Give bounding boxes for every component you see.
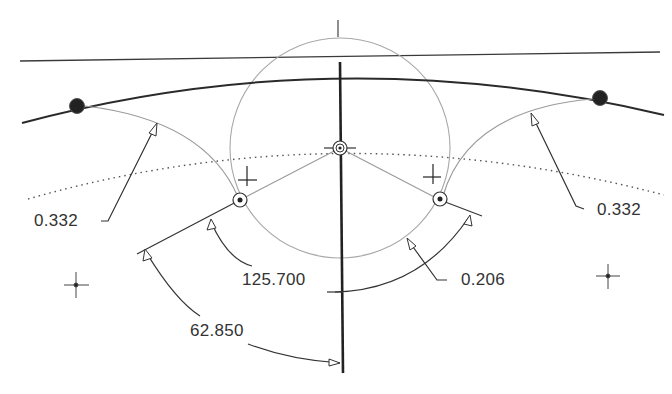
- leader-radius-right[interactable]: [532, 115, 584, 209]
- angle-arc-125-right[interactable]: [335, 217, 469, 292]
- constraint-icon-left: [238, 166, 257, 186]
- reference-line-horizontal[interactable]: [20, 52, 660, 61]
- arrowhead-125-left: [207, 219, 216, 230]
- dimension-radius-small[interactable]: 0.206: [461, 270, 505, 290]
- endpoint-marker-left[interactable]: [70, 99, 85, 114]
- fillet-arc-right[interactable]: [443, 99, 592, 196]
- dimension-angle-inner[interactable]: 125.700: [242, 270, 306, 290]
- outer-arc[interactable]: [22, 78, 664, 123]
- arrowhead-radius-right: [531, 113, 539, 126]
- endpoint-marker-right[interactable]: [593, 91, 608, 106]
- origin-marker-left[interactable]: [64, 272, 89, 298]
- point-marker-tangent-left[interactable]: [233, 193, 247, 207]
- dotted-arc[interactable]: [28, 153, 664, 199]
- angle-arc-62[interactable]: [146, 252, 200, 316]
- dimension-angle-half[interactable]: 62.850: [190, 321, 244, 341]
- spoke-right[interactable]: [340, 148, 440, 200]
- dimension-radius-right[interactable]: 0.332: [597, 200, 641, 220]
- fillet-arc-left[interactable]: [85, 106, 238, 197]
- spoke-left[interactable]: [240, 148, 340, 200]
- leader-radius-left[interactable]: [101, 125, 156, 221]
- arrowhead-62-right: [329, 359, 340, 366]
- arrowhead-radius-left: [149, 123, 157, 136]
- origin-marker-right[interactable]: [596, 264, 620, 289]
- point-marker-tangent-right[interactable]: [433, 192, 447, 206]
- angle-arc-62-lower[interactable]: [248, 344, 340, 363]
- constraint-icon-right: [423, 164, 441, 184]
- arrowhead-125-right: [464, 215, 472, 226]
- center-point-marker[interactable]: [324, 141, 356, 155]
- center-axis-vertical[interactable]: [340, 62, 343, 373]
- angle-arc-125[interactable]: [211, 222, 252, 266]
- dimension-radius-left[interactable]: 0.332: [34, 211, 78, 231]
- sketch-canvas[interactable]: [0, 0, 672, 394]
